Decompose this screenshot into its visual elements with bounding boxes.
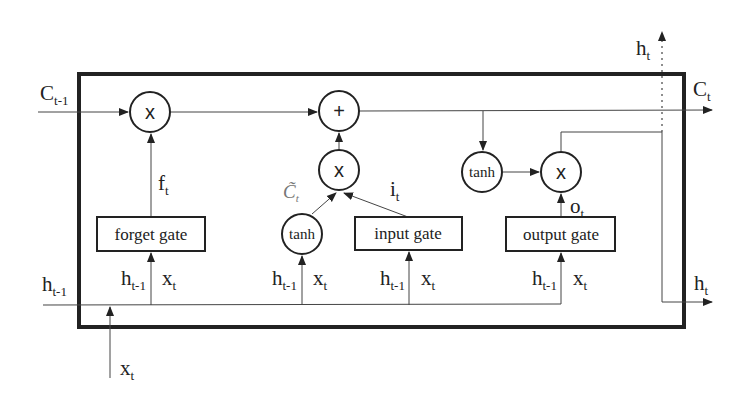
input-gate-inputs-label: ht-1 xt — [380, 266, 436, 293]
svg-text:ht-1: ht-1 — [532, 266, 557, 293]
svg-text:+: + — [333, 100, 345, 122]
svg-text:input gate: input gate — [374, 224, 442, 243]
c-out-label: Ct — [693, 77, 711, 104]
svg-text:ht-1: ht-1 — [380, 266, 405, 293]
svg-text:tanh: tanh — [289, 226, 315, 242]
svg-text:output gate: output gate — [523, 225, 599, 244]
output-gate: output gate — [506, 217, 615, 251]
forget-gate-inputs-label: ht-1 xt — [121, 266, 177, 293]
candidate-tanh-node: tanh — [282, 214, 322, 254]
svg-text:x: x — [334, 159, 344, 181]
svg-text:ht-1: ht-1 — [121, 266, 146, 293]
cell-add-node: + — [319, 91, 359, 131]
h-out-right-label: ht — [694, 271, 709, 298]
input-multiply-node: x — [319, 150, 359, 190]
output-multiply-node: x — [541, 152, 581, 192]
output-tanh-node: tanh — [462, 152, 502, 192]
svg-text:xt: xt — [162, 266, 177, 293]
output-gate-inputs-label: ht-1 xt — [532, 266, 588, 293]
forget-gate: forget gate — [97, 217, 205, 251]
it-label: it — [390, 177, 400, 204]
h-out-top-label: ht — [636, 36, 651, 63]
h-prev-label: ht-1 — [42, 272, 67, 299]
input-gate: input gate — [355, 217, 462, 250]
svg-text:forget gate: forget gate — [115, 225, 188, 244]
lstm-diagram: x ft forget gate + x C̃t it tanh input g… — [0, 0, 749, 395]
ft-label: ft — [158, 171, 169, 198]
svg-text:x: x — [145, 101, 155, 123]
candidate-inputs-label: ht-1 xt — [272, 266, 328, 293]
svg-text:xt: xt — [313, 266, 328, 293]
svg-text:xt: xt — [573, 266, 588, 293]
candidate-arrow — [312, 193, 336, 214]
candidate-label: C̃t — [283, 181, 300, 204]
svg-text:tanh: tanh — [469, 164, 495, 180]
c-prev-label: Ct-1 — [40, 81, 68, 108]
forget-multiply-node: x — [130, 92, 170, 132]
x-in-label: xt — [120, 356, 135, 383]
svg-text:xt: xt — [421, 266, 436, 293]
svg-text:x: x — [556, 161, 566, 183]
svg-text:ht-1: ht-1 — [272, 266, 297, 293]
